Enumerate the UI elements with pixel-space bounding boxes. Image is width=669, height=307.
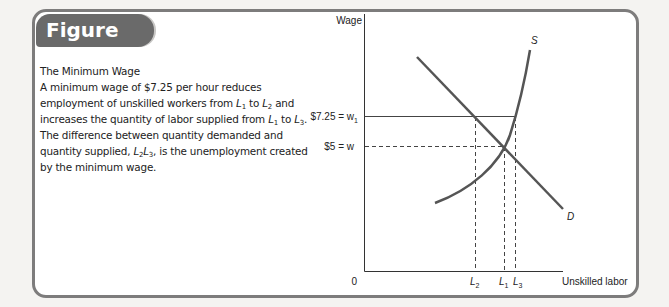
origin-label: 0	[351, 276, 357, 287]
x-tick-L3: L3	[513, 276, 523, 289]
supply-label: S	[531, 35, 538, 46]
x-tick-L2-sub: 2	[476, 282, 480, 289]
y-tick-w1: $7.25 = w1	[310, 111, 358, 124]
x-tick-L3-sub: 3	[519, 282, 523, 289]
demand-curve	[417, 57, 563, 209]
x-tick-L2: L2	[470, 276, 480, 289]
x-axis-label: Unskilled labor	[562, 276, 628, 287]
y-tick-w1-sub: 1	[354, 117, 358, 124]
x-tick-L1: L1	[499, 276, 509, 289]
y-axis-label: Wage	[336, 15, 362, 26]
minimum-wage-chart: Wage 0 Unskilled labor $7.25 = w1 $5 = w…	[0, 0, 669, 307]
x-tick-L1-sub: 1	[505, 282, 509, 289]
demand-label: D	[567, 211, 574, 222]
y-tick-w1-text: $7.25 = w	[310, 111, 354, 122]
y-tick-w: $5 = w	[324, 141, 355, 152]
